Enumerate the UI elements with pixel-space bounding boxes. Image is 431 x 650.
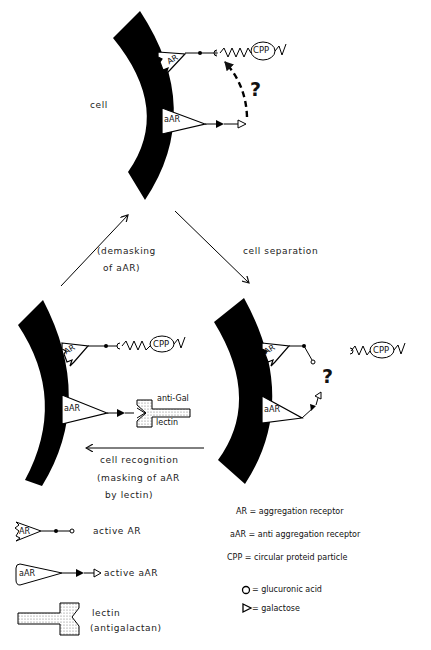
cell-separation-label: cell separation [243,246,318,256]
bl-cpp-label: CPP [153,339,169,349]
legend-aar-inner: aAR [19,569,35,578]
dashed-arrow [225,62,247,117]
recognition-label-1: cell recognition [100,455,179,465]
legend-glucuronic-symbol [243,587,250,594]
bl-aar-label: aAR [64,404,80,413]
bottom-left-cell-membrane [18,300,69,486]
top-cell-label: cell [90,100,108,110]
br-question-mark: ? [322,365,333,387]
legend-def-glucuronic: = glucuronic acid [252,585,322,594]
legend-active-ar: active AR [93,526,141,536]
top-question-mark: ? [250,78,261,100]
top-aar-label: aAR [164,115,180,124]
legend-def-aar: aAR = anti aggregation receptor [230,530,360,539]
br-cpp-label: CPP [373,345,389,355]
anti-gal-label: anti-Gal [157,394,189,403]
diagram-canvas [0,0,431,650]
legend-ar-inner: AR [19,527,30,536]
legend-antigalactan: (antigalactan) [90,623,162,633]
top-cpp-label: CPP [253,45,269,55]
separation-arrow [175,211,249,283]
legend-def-ar: AR = aggregation receptor [236,507,344,516]
top-cell-membrane [113,11,174,200]
legend-def-cpp: CPP = circular proteid particle [227,553,347,562]
br-aar-label: aAR [264,405,280,414]
demasking-label-2: of aAR) [103,263,140,273]
bottom-right-cell-membrane [214,298,272,484]
recognition-label-2: (masking of aAR [97,473,180,483]
legend-galactose-symbol [243,604,251,612]
legend-lectin: lectin [92,608,120,618]
recognition-label-3: by lectin) [105,490,153,500]
demasking-label-1: (demasking [97,246,156,256]
legend-def-galactose: = galactose [252,604,300,613]
lectin-label: lectin [156,418,178,427]
legend-lectin-symbol [18,603,79,635]
legend-active-aar: active aAR [104,568,158,578]
